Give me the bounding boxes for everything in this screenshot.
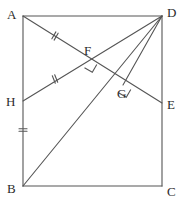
vertex-label-c: C (167, 185, 176, 198)
segment-layer (23, 16, 162, 186)
vertex-label-b: B (7, 182, 16, 195)
vertex-label-h: H (6, 95, 15, 108)
perpendicular-DG (123, 16, 162, 85)
geometry-figure: ABCDEFGH (0, 0, 189, 203)
vertex-label-d: D (167, 6, 176, 19)
vertex-label-e: E (167, 98, 175, 111)
vertex-label-f: F (84, 44, 91, 57)
vertex-label-g: G (117, 87, 126, 100)
geometry-canvas (0, 0, 189, 203)
tick-HF (52, 75, 57, 83)
vertex-label-a: A (7, 8, 16, 21)
tick-mark-layer (19, 32, 58, 131)
diagonal-BD (23, 16, 162, 186)
